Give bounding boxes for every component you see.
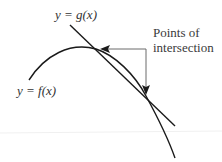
- faint-rule: [0, 131, 222, 133]
- annotation-line-2: intersection: [153, 40, 214, 55]
- annotation-text: Points of intersection: [153, 25, 214, 55]
- label-g: y = g(x): [55, 8, 97, 21]
- label-f-text: y = f(x): [17, 83, 56, 98]
- label-g-text: y = g(x): [55, 7, 97, 22]
- label-f: y = f(x): [17, 84, 56, 97]
- annotation-line-1: Points of: [153, 25, 214, 40]
- diagram-canvas: y = g(x) Points of intersection y = f(x): [0, 0, 222, 162]
- curve-f: [29, 47, 175, 158]
